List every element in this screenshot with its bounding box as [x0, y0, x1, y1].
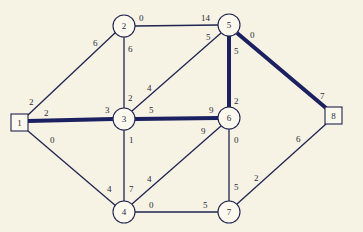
- edge-7-8: [237, 124, 326, 204]
- edges-layer: [28, 25, 326, 212]
- node-8-label: 8: [331, 111, 336, 121]
- node-4-label: 4: [122, 207, 127, 217]
- weight-4-6-at-4: 4: [147, 174, 152, 184]
- node-2: 2: [113, 15, 135, 37]
- weight-2-5-at-5: 14: [201, 13, 211, 23]
- weight-5-8-at-5: 0: [250, 30, 255, 40]
- edge-5-8-highlight: [237, 33, 326, 108]
- weight-5-6-at-6: 2: [234, 96, 239, 106]
- node-4: 4: [113, 201, 135, 223]
- edge-2-5: [135, 25, 218, 26]
- weight-5-8-at-8: 7: [320, 91, 325, 101]
- node-2-label: 2: [122, 21, 127, 31]
- node-7: 7: [218, 201, 240, 223]
- weight-2-3-at-2: 6: [128, 44, 133, 54]
- weight-2-3-at-3: 2: [128, 93, 133, 103]
- network-diagram: 2 6 2 3 0 4 0 14 6 2 4 5 5 9 1 7 5 2 0 7…: [0, 0, 363, 232]
- weight-3-6-at-6: 9: [209, 105, 214, 115]
- node-5-label: 5: [227, 20, 232, 30]
- weight-7-8-at-8: 6: [296, 134, 301, 144]
- weight-3-5-at-3: 4: [147, 83, 152, 93]
- edge-1-4: [28, 131, 116, 206]
- weight-3-4-at-4: 7: [129, 184, 134, 194]
- node-1: 1: [11, 114, 28, 131]
- weight-1-3-at-1: 2: [44, 108, 49, 118]
- weight-1-2-at-1: 2: [29, 97, 34, 107]
- weight-6-7-at-7: 5: [234, 182, 239, 192]
- weight-4-6-at-6: 9: [201, 126, 206, 136]
- node-7-label: 7: [227, 207, 232, 217]
- edge-3-5: [132, 33, 221, 111]
- weight-1-2-at-2: 6: [93, 38, 98, 48]
- edge-1-3-highlight: [28, 119, 113, 121]
- edge-1-2: [28, 32, 116, 115]
- node-6-label: 6: [227, 113, 232, 123]
- node-1-label: 1: [17, 118, 22, 128]
- edge-3-6-highlight: [135, 118, 218, 119]
- edge-weights: 2 6 2 3 0 4 0 14 6 2 4 5 5 9 1 7 5 2 0 7…: [29, 13, 325, 210]
- weight-6-7-at-6: 0: [234, 135, 239, 145]
- weight-7-8-at-7: 2: [254, 173, 259, 183]
- weight-2-5-at-2: 0: [139, 13, 144, 23]
- node-5: 5: [218, 14, 240, 36]
- weight-1-4-at-4: 4: [107, 184, 112, 194]
- node-8: 8: [325, 107, 342, 124]
- weight-1-3-at-3: 3: [105, 105, 110, 115]
- network-graph: 2 6 2 3 0 4 0 14 6 2 4 5 5 9 1 7 5 2 0 7…: [0, 0, 363, 232]
- weight-3-4-at-3: 1: [129, 135, 134, 145]
- weight-5-6-at-5: 5: [234, 46, 239, 56]
- weight-1-4-at-1: 0: [50, 135, 55, 145]
- node-3-label: 3: [122, 114, 127, 124]
- edge-4-6: [132, 126, 221, 204]
- weight-3-5-at-5: 5: [206, 32, 211, 42]
- node-6: 6: [218, 107, 240, 129]
- weight-4-7-at-4: 0: [149, 200, 154, 210]
- weight-4-7-at-7: 5: [203, 200, 208, 210]
- weight-3-6-at-3: 5: [149, 105, 154, 115]
- node-3: 3: [113, 108, 135, 130]
